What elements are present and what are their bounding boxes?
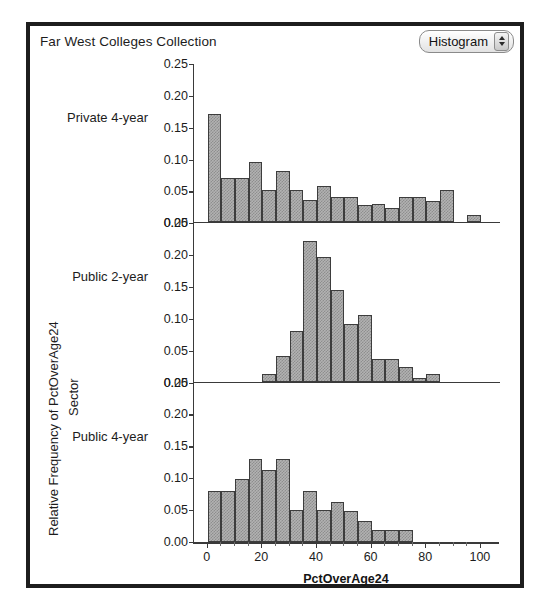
histogram-bar[interactable] bbox=[262, 470, 276, 542]
x-tick-minor bbox=[453, 542, 454, 546]
histogram-bar[interactable] bbox=[385, 359, 399, 381]
histogram-bar[interactable] bbox=[426, 201, 440, 222]
plot-type-label: Histogram bbox=[429, 34, 488, 49]
histogram-bar[interactable] bbox=[331, 290, 345, 381]
histogram-bar[interactable] bbox=[249, 459, 263, 542]
plot-type-select[interactable]: Histogram bbox=[419, 30, 514, 53]
y-tick-label: 0.05 bbox=[164, 184, 188, 198]
histogram-bar[interactable] bbox=[372, 204, 386, 222]
histogram-bar[interactable] bbox=[208, 114, 222, 222]
x-tick-major bbox=[261, 542, 262, 548]
y-tick-label: 0.00 bbox=[164, 535, 188, 549]
y-tick-label: 0.25 bbox=[164, 57, 188, 71]
histogram-bar[interactable] bbox=[385, 208, 399, 222]
histogram-bar[interactable] bbox=[385, 530, 399, 542]
histogram-bar[interactable] bbox=[372, 359, 386, 381]
y-tick-label: 0.20 bbox=[164, 89, 188, 103]
histogram-bar[interactable] bbox=[303, 241, 317, 381]
y-tick-label: 0.20 bbox=[164, 248, 188, 262]
y-tick-label: 0.10 bbox=[164, 312, 188, 326]
x-tick-major bbox=[425, 542, 426, 548]
y-axis-ticks: 0.000.050.100.150.200.25 bbox=[148, 383, 194, 542]
histogram-bar[interactable] bbox=[208, 491, 222, 542]
histogram-bar[interactable] bbox=[317, 257, 331, 381]
histogram-bar[interactable] bbox=[344, 197, 358, 222]
x-tick-label: 100 bbox=[469, 550, 490, 564]
histogram-bar[interactable] bbox=[399, 530, 413, 542]
histogram-bar[interactable] bbox=[331, 197, 345, 222]
x-tick-label: 80 bbox=[418, 550, 432, 564]
x-tick-minor bbox=[343, 542, 344, 546]
histogram-bar[interactable] bbox=[221, 178, 235, 223]
histogram-bar[interactable] bbox=[276, 171, 290, 222]
x-tick-minor bbox=[466, 542, 467, 546]
x-tick-minor bbox=[289, 542, 290, 546]
histogram-bar[interactable] bbox=[276, 459, 290, 542]
histogram-bar[interactable] bbox=[344, 324, 358, 381]
x-tick-label: 40 bbox=[309, 550, 323, 564]
histogram-bar[interactable] bbox=[221, 491, 235, 542]
y-axis-ticks: 0.000.050.100.150.200.25 bbox=[148, 223, 194, 381]
x-tick-major bbox=[207, 542, 208, 548]
triangle-down-icon[interactable] bbox=[499, 42, 505, 46]
facet-axis-title: Sector bbox=[66, 378, 81, 416]
histogram-bar[interactable] bbox=[426, 374, 440, 382]
histogram-bar[interactable] bbox=[358, 521, 372, 542]
bar-group bbox=[194, 223, 500, 381]
y-axis-ticks: 0.000.050.100.150.200.25 bbox=[148, 64, 194, 222]
y-tick-label: 0.25 bbox=[164, 216, 188, 230]
histogram-bar[interactable] bbox=[290, 331, 304, 382]
window-titlebar: Far West Colleges Collection Histogram bbox=[30, 26, 520, 56]
histogram-bar[interactable] bbox=[331, 502, 345, 542]
x-tick-minor bbox=[275, 542, 276, 546]
histogram-bar[interactable] bbox=[262, 190, 276, 222]
histogram-bar[interactable] bbox=[235, 479, 249, 541]
y-axis-title: Relative Frequency of PctOverAge24 bbox=[46, 321, 61, 536]
histogram-bar[interactable] bbox=[399, 367, 413, 382]
histogram-panel: Private 4-year0.000.050.100.150.200.25 bbox=[194, 64, 500, 223]
chart-area: Relative Frequency of PctOverAge24 Secto… bbox=[30, 56, 520, 584]
histogram-bar[interactable] bbox=[303, 491, 317, 542]
panel-label: Public 2-year bbox=[72, 269, 148, 284]
histogram-panel: Public 2-year0.000.050.100.150.200.25 bbox=[194, 223, 500, 382]
histogram-bar[interactable] bbox=[372, 530, 386, 542]
histogram-bar[interactable] bbox=[303, 200, 317, 222]
bar-group bbox=[194, 64, 500, 222]
histogram-bar[interactable] bbox=[290, 510, 304, 542]
histogram-bar[interactable] bbox=[317, 186, 331, 222]
x-tick-minor bbox=[439, 542, 440, 546]
bar-group bbox=[194, 383, 500, 542]
histogram-bar[interactable] bbox=[235, 178, 249, 223]
x-tick-label: 60 bbox=[364, 550, 378, 564]
x-tick-minor bbox=[330, 542, 331, 546]
x-tick-major bbox=[480, 542, 481, 548]
histogram-bar[interactable] bbox=[467, 215, 481, 223]
x-tick-minor bbox=[398, 542, 399, 546]
x-tick-label: 20 bbox=[254, 550, 268, 564]
histogram-bar[interactable] bbox=[440, 190, 454, 222]
y-tick-label: 0.05 bbox=[164, 503, 188, 517]
histogram-bar[interactable] bbox=[358, 205, 372, 222]
histogram-bar[interactable] bbox=[317, 510, 331, 542]
triangle-up-icon[interactable] bbox=[499, 36, 505, 40]
histogram-bar[interactable] bbox=[413, 197, 427, 222]
x-axis-title: PctOverAge24 bbox=[193, 572, 499, 586]
histogram-bar[interactable] bbox=[290, 190, 304, 222]
x-tick-minor bbox=[248, 542, 249, 546]
x-tick-minor bbox=[412, 542, 413, 546]
histogram-bar[interactable] bbox=[344, 511, 358, 542]
y-tick-label: 0.25 bbox=[164, 376, 188, 390]
y-tick-label: 0.05 bbox=[164, 344, 188, 358]
histogram-panel: Public 4-year0.000.050.100.150.200.25 bbox=[194, 383, 500, 542]
collection-title: Far West Colleges Collection bbox=[40, 34, 217, 49]
histogram-bar[interactable] bbox=[399, 197, 413, 222]
histogram-panels: Private 4-year0.000.050.100.150.200.25Pu… bbox=[193, 64, 500, 542]
y-tick-label: 0.10 bbox=[164, 471, 188, 485]
histogram-bar[interactable] bbox=[276, 356, 290, 381]
plot-type-stepper[interactable] bbox=[494, 32, 509, 51]
histogram-bar[interactable] bbox=[249, 162, 263, 223]
histogram-bar[interactable] bbox=[358, 315, 372, 382]
histogram-bar[interactable] bbox=[413, 378, 427, 381]
histogram-bar[interactable] bbox=[262, 374, 276, 382]
x-tick-minor bbox=[384, 542, 385, 546]
